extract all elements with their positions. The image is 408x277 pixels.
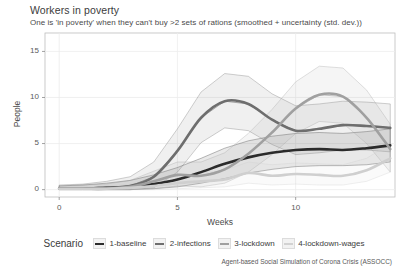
legend-label: 2-infections	[170, 239, 211, 248]
legend-item-4-lockdown-wages[interactable]: 4-lockdown-wages	[282, 238, 365, 249]
chart-credit: Agent-based Social Simulation of Corona …	[0, 258, 400, 265]
legend-item-1-baseline[interactable]: 1-baseline	[93, 238, 146, 249]
legend-key-icon	[218, 238, 231, 249]
legend-item-3-lockdown[interactable]: 3-lockdown	[218, 238, 275, 249]
plot-area	[0, 0, 408, 277]
legend-label: 1-baseline	[109, 239, 146, 248]
chart-figure: Workers in poverty One is 'in poverty' w…	[0, 0, 408, 277]
legend-label: 3-lockdown	[234, 239, 274, 248]
legend-key-icon	[93, 238, 106, 249]
legend: Scenario 1-baseline 2-infections 3-lockd…	[0, 238, 408, 249]
legend-label: 4-lockdown-wages	[298, 239, 364, 248]
legend-item-2-infections[interactable]: 2-infections	[153, 238, 210, 249]
legend-title: Scenario	[43, 238, 82, 249]
legend-key-icon	[153, 238, 166, 249]
legend-key-icon	[282, 238, 295, 249]
